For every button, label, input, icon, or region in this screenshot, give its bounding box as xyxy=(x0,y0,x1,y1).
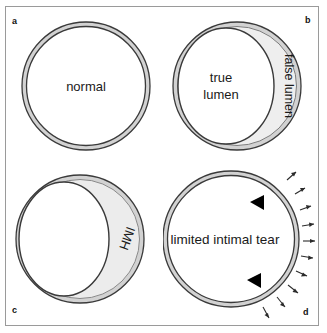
panel-letter-b: b xyxy=(305,16,311,25)
tick-mark xyxy=(296,271,307,277)
panel-b-label-true: true xyxy=(210,70,232,85)
tick-mark xyxy=(288,285,298,293)
panel-a-drawing: normal xyxy=(6,7,163,167)
panel-b-label-lumen: lumen xyxy=(203,87,238,102)
aortic-wall-figure: normal a true lumen false lumen b IMH c xyxy=(0,0,327,333)
panel-letter-d: d xyxy=(303,308,309,317)
panel-b-label-false-lumen: false lumen xyxy=(282,54,296,118)
panel-letter-a: a xyxy=(12,17,17,26)
panel-a-label-normal: normal xyxy=(66,79,106,94)
panel-d-label-limited-intimal-tear: limited intimal tear xyxy=(171,232,280,247)
panel-b-dissection: true lumen false lumen xyxy=(163,7,320,167)
tick-mark xyxy=(303,239,315,243)
tick-mark xyxy=(300,205,311,210)
tick-mark xyxy=(295,188,305,194)
panel-a-normal: normal xyxy=(6,7,163,167)
panel-c-drawing: IMH xyxy=(6,167,163,326)
panel-letter-c: c xyxy=(12,306,17,315)
true-lumen-region xyxy=(178,28,274,144)
panel-d-intimal-tear: limited intimal tear xyxy=(163,167,320,326)
tick-mark xyxy=(287,172,296,180)
tick-mark xyxy=(263,307,269,318)
panel-c-imh: IMH xyxy=(6,167,163,326)
tick-mark xyxy=(301,256,313,261)
tick-mark xyxy=(302,223,314,228)
panel-b-drawing: true lumen false lumen xyxy=(163,7,320,167)
tick-mark xyxy=(277,297,285,307)
residual-lumen-region xyxy=(19,182,109,296)
vessel-wall-ring-b xyxy=(173,22,301,150)
panel-d-drawing: limited intimal tear xyxy=(163,167,320,326)
